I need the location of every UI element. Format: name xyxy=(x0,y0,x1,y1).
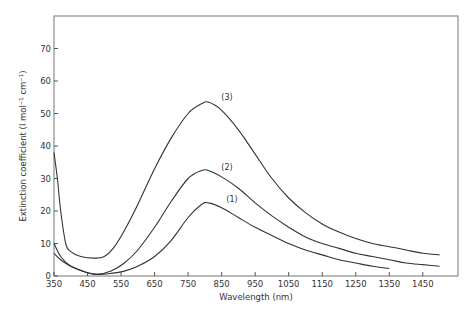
y-tick-label: 40 xyxy=(40,141,51,151)
series-curve-1 xyxy=(54,203,389,275)
extinction-spectrum-chart: 010203040506070 350450550650750850950105… xyxy=(0,0,470,317)
series-curve-3 xyxy=(54,102,440,258)
x-tick-label: 1350 xyxy=(378,279,400,289)
x-tick-label: 1450 xyxy=(412,279,434,289)
x-tick-label: 950 xyxy=(247,279,263,289)
x-tick-label: 650 xyxy=(146,279,162,289)
x-tick-label: 1050 xyxy=(278,279,300,289)
x-tick-label: 1150 xyxy=(311,279,333,289)
y-tick-label: 30 xyxy=(40,174,51,184)
curve-label-1: (1) xyxy=(226,195,237,204)
curve-label-2: (2) xyxy=(221,163,232,172)
x-tick-label: 450 xyxy=(79,279,95,289)
x-tick-label: 1250 xyxy=(345,279,367,289)
x-axis-label: Wavelength (nm) xyxy=(219,292,292,302)
x-tick-label: 750 xyxy=(180,279,196,289)
x-tick-label: 350 xyxy=(46,279,62,289)
data-series xyxy=(54,102,440,275)
y-tick-label: 50 xyxy=(40,109,51,119)
curve-labels: (3) (2) (1) xyxy=(221,93,237,204)
y-tick-label: 20 xyxy=(40,206,51,216)
x-tick-label: 850 xyxy=(214,279,230,289)
y-tick-label: 70 xyxy=(40,44,51,54)
y-axis-label: Extinction coefficient (l mol⁻¹ cm⁻¹) xyxy=(18,70,28,221)
x-tick-label: 550 xyxy=(113,279,129,289)
plot-frame xyxy=(54,16,458,276)
y-tick-label: 60 xyxy=(40,76,51,86)
curve-label-3: (3) xyxy=(221,93,232,102)
y-tick-label: 10 xyxy=(40,239,51,249)
